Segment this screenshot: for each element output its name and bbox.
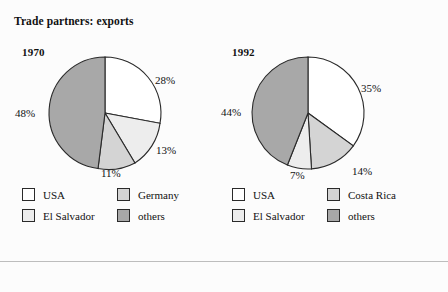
legend-label-usa: USA xyxy=(253,189,275,201)
chart-panel-1992: 1992 35% 14% 7% 44% USA xyxy=(218,38,423,243)
legend-item-usa[interactable]: USA xyxy=(22,188,117,201)
legend-label-others: others xyxy=(348,210,375,222)
pie-label-costa-rica: 14% xyxy=(352,165,372,177)
legend-swatch-germany xyxy=(117,188,130,201)
pie-label-el-salvador: 7% xyxy=(290,169,305,181)
pie-svg-1992 xyxy=(218,52,423,178)
pie-label-germany: 11% xyxy=(101,167,121,179)
legend-swatch-el-salvador xyxy=(22,209,35,222)
legend-row: USA Costa Rica xyxy=(232,184,422,205)
legend-label-el-salvador: El Salvador xyxy=(253,210,305,222)
legend-swatch-costa-rica xyxy=(327,188,340,201)
pie-label-usa: 35% xyxy=(361,82,381,94)
legend-label-usa: USA xyxy=(43,189,65,201)
pie-slice-usa xyxy=(105,57,161,123)
legend-swatch-usa xyxy=(22,188,35,201)
legend-item-el-salvador[interactable]: El Salvador xyxy=(22,209,117,222)
legend-1992: USA Costa Rica El Salvador others xyxy=(232,184,422,226)
legend-item-usa[interactable]: USA xyxy=(232,188,327,201)
pie-slice-others xyxy=(49,57,105,169)
legend-row: USA Germany xyxy=(22,184,212,205)
legend-label-el-salvador: El Salvador xyxy=(43,210,95,222)
pie-label-el-salvador: 13% xyxy=(156,144,176,156)
legend-swatch-others xyxy=(117,209,130,222)
legend-row: El Salvador others xyxy=(232,205,422,226)
legend-item-germany[interactable]: Germany xyxy=(117,188,212,201)
figure-trade-partners-exports: Trade partners: exports 1970 28% 13% 11%… xyxy=(0,0,448,292)
figure-title: Trade partners: exports xyxy=(14,15,134,27)
pie-label-others: 44% xyxy=(221,106,241,118)
pie-label-others: 48% xyxy=(15,107,35,119)
bottom-divider xyxy=(0,261,448,262)
legend-item-costa-rica[interactable]: Costa Rica xyxy=(327,188,422,201)
legend-row: El Salvador others xyxy=(22,205,212,226)
legend-item-others[interactable]: others xyxy=(117,209,212,222)
legend-label-costa-rica: Costa Rica xyxy=(348,189,396,201)
legend-item-el-salvador[interactable]: El Salvador xyxy=(232,209,327,222)
pie-chart-1992: 35% 14% 7% 44% xyxy=(218,52,423,178)
legend-item-others[interactable]: others xyxy=(327,209,422,222)
legend-swatch-others xyxy=(327,209,340,222)
legend-1970: USA Germany El Salvador others xyxy=(22,184,212,226)
legend-label-others: others xyxy=(138,210,165,222)
pie-chart-1970: 28% 13% 11% 48% xyxy=(8,52,213,178)
pie-svg-1970 xyxy=(8,52,213,178)
legend-label-germany: Germany xyxy=(138,189,179,201)
pie-label-usa: 28% xyxy=(155,74,175,86)
legend-swatch-usa xyxy=(232,188,245,201)
chart-panel-1970: 1970 28% 13% 11% 48% USA xyxy=(8,38,213,243)
legend-swatch-el-salvador xyxy=(232,209,245,222)
